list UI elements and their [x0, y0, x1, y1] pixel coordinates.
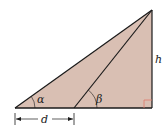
beta-label: β	[95, 93, 102, 106]
alpha-label: α	[37, 93, 45, 106]
distance-label: d	[41, 113, 48, 126]
d-arrowhead-right	[68, 117, 73, 121]
diagram-svg: α β h d	[0, 0, 165, 129]
d-arrowhead-left	[16, 117, 21, 121]
height-label: h	[155, 53, 162, 66]
triangle-diagram: α β h d	[0, 0, 165, 129]
